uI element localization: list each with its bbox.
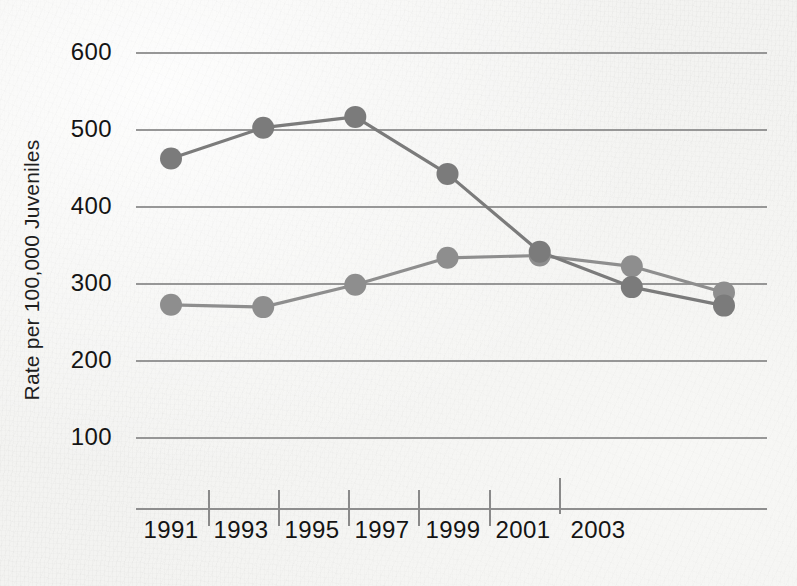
x-tick-label-2003: 2003: [553, 516, 643, 544]
data-point: [621, 255, 643, 277]
series-upper-line: [171, 117, 724, 306]
chart-figure: Rate per 100,000 Juveniles 600 500 400 3…: [0, 0, 797, 586]
data-point: [160, 294, 182, 316]
data-point: [160, 148, 182, 170]
data-point: [344, 274, 366, 296]
x-tick-mark-6: [559, 478, 561, 514]
data-point: [713, 295, 735, 317]
data-point: [529, 241, 551, 263]
plot-area: [0, 0, 797, 586]
data-point: [437, 163, 459, 185]
data-point: [252, 296, 274, 318]
data-point: [437, 247, 459, 269]
series-upper-markers: [160, 106, 735, 317]
data-point: [252, 117, 274, 139]
data-point: [344, 106, 366, 128]
data-point: [621, 276, 643, 298]
x-axis-line: [136, 508, 767, 510]
